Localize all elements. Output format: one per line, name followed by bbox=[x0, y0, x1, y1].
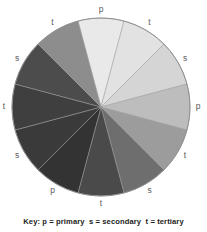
wheel-label-secondary: s bbox=[11, 54, 23, 63]
colour-wheel-figure: ptsptstpstst Key: p = primary s = second… bbox=[0, 0, 207, 232]
wheel-label-secondary: s bbox=[11, 151, 23, 160]
wheel-label-secondary: s bbox=[179, 54, 191, 63]
wheel-label-tertiary: t bbox=[95, 199, 107, 208]
key-caption: Key: p = primary s = secondary t = terti… bbox=[0, 217, 207, 226]
wheel-label-primary: p bbox=[192, 102, 204, 111]
wheel-label-primary: p bbox=[47, 186, 59, 195]
wheel-label-tertiary: t bbox=[0, 102, 10, 111]
wheel-label-secondary: s bbox=[144, 186, 156, 195]
colour-wheel: ptsptstpstst bbox=[0, 0, 207, 216]
wheel-label-tertiary: t bbox=[144, 18, 156, 27]
key-text: Key: p = primary s = secondary t = terti… bbox=[23, 217, 183, 226]
wheel-label-tertiary: t bbox=[47, 18, 59, 27]
colour-wheel-svg bbox=[0, 0, 207, 216]
wheel-label-tertiary: t bbox=[179, 151, 191, 160]
wheel-label-primary: p bbox=[95, 5, 107, 14]
wheel-segments bbox=[12, 18, 190, 196]
